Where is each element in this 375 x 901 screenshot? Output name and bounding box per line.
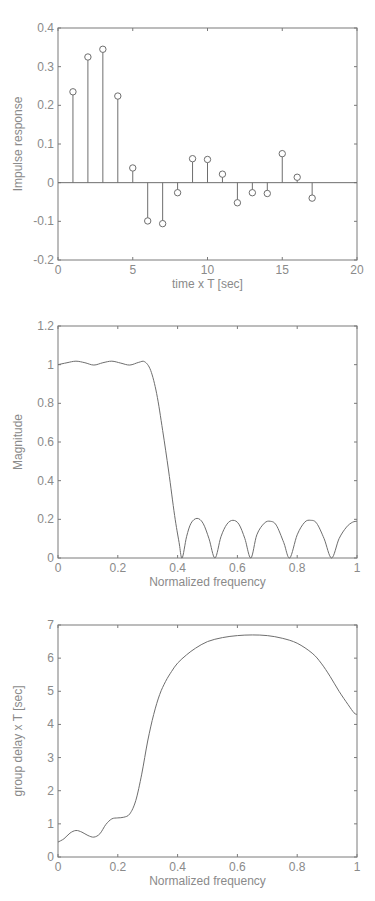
x-tick-label: 0.4 bbox=[169, 860, 186, 874]
y-tick-label: 0 bbox=[47, 176, 54, 190]
group-delay-chart: 00.20.40.60.8101234567Normalized frequen… bbox=[0, 597, 375, 897]
stem-marker bbox=[174, 190, 180, 196]
stem-marker bbox=[264, 190, 270, 196]
x-tick-label: 0.8 bbox=[289, 561, 306, 575]
y-tick-label: 0.3 bbox=[37, 60, 54, 74]
magnitude-response-chart: 00.20.40.60.8100.20.40.60.811.2Normalize… bbox=[0, 298, 375, 598]
y-tick-label: -0.1 bbox=[33, 214, 54, 228]
x-tick-label: 0.6 bbox=[229, 561, 246, 575]
plot-frame bbox=[58, 326, 357, 558]
stem-marker bbox=[279, 150, 285, 156]
y-axis-label: group delay x T [sec] bbox=[11, 686, 25, 797]
x-axis-label: Normalized frequency bbox=[149, 575, 266, 589]
y-tick-label: 0.4 bbox=[37, 21, 54, 35]
magnitude-response-plot: 00.20.40.60.8100.20.40.60.811.2Normalize… bbox=[0, 298, 375, 598]
x-tick-label: 0.6 bbox=[229, 860, 246, 874]
stem-marker bbox=[249, 190, 255, 196]
stem-marker bbox=[145, 218, 151, 224]
x-axis-label: Normalized frequency bbox=[149, 874, 266, 888]
y-tick-label: 1 bbox=[47, 817, 54, 831]
y-tick-label: 0.1 bbox=[37, 137, 54, 151]
stem-marker bbox=[159, 220, 165, 226]
x-tick-label: 15 bbox=[276, 263, 290, 277]
x-tick-label: 0.4 bbox=[169, 561, 186, 575]
y-tick-label: 3 bbox=[47, 751, 54, 765]
x-tick-label: 5 bbox=[129, 263, 136, 277]
data-line bbox=[58, 635, 357, 842]
stem-marker bbox=[234, 200, 240, 206]
stem-marker bbox=[294, 174, 300, 180]
y-tick-label: 0.4 bbox=[37, 474, 54, 488]
x-tick-label: 0 bbox=[55, 263, 62, 277]
group-delay-plot: 00.20.40.60.8101234567Normalized frequen… bbox=[0, 597, 375, 897]
y-tick-label: 0.6 bbox=[37, 435, 54, 449]
y-tick-label: -0.2 bbox=[33, 253, 54, 267]
y-tick-label: 0.2 bbox=[37, 512, 54, 526]
x-tick-label: 1 bbox=[354, 561, 361, 575]
stem-marker bbox=[70, 89, 76, 95]
stem-marker bbox=[115, 93, 121, 99]
stem-marker bbox=[204, 156, 210, 162]
stem-marker bbox=[189, 155, 195, 161]
x-tick-label: 0 bbox=[55, 561, 62, 575]
y-tick-label: 7 bbox=[47, 618, 54, 632]
x-tick-label: 0.2 bbox=[109, 561, 126, 575]
stem-marker bbox=[85, 54, 91, 60]
impulse-response-plot: 05101520-0.2-0.100.10.20.30.4time x T [s… bbox=[0, 0, 375, 300]
x-tick-label: 10 bbox=[201, 263, 215, 277]
stem-marker bbox=[100, 46, 106, 52]
y-tick-label: 0 bbox=[47, 850, 54, 864]
y-tick-label: 4 bbox=[47, 717, 54, 731]
y-axis-label: Impulse response bbox=[11, 96, 25, 191]
stem-marker bbox=[309, 195, 315, 201]
x-tick-label: 0.2 bbox=[109, 860, 126, 874]
y-tick-label: 1.2 bbox=[37, 319, 54, 333]
x-tick-label: 0.8 bbox=[289, 860, 306, 874]
x-axis-label: time x T [sec] bbox=[172, 277, 243, 291]
x-tick-label: 1 bbox=[354, 860, 361, 874]
y-tick-label: 6 bbox=[47, 651, 54, 665]
y-tick-label: 0.2 bbox=[37, 98, 54, 112]
plot-frame bbox=[58, 625, 357, 857]
stem-marker bbox=[130, 165, 136, 171]
y-axis-label: Magnitude bbox=[11, 414, 25, 470]
impulse-response-chart: 05101520-0.2-0.100.10.20.30.4time x T [s… bbox=[0, 0, 375, 300]
y-tick-label: 1 bbox=[47, 358, 54, 372]
data-line bbox=[58, 361, 357, 558]
y-tick-label: 0.8 bbox=[37, 396, 54, 410]
stem-marker bbox=[219, 171, 225, 177]
y-tick-label: 5 bbox=[47, 684, 54, 698]
x-tick-label: 0 bbox=[55, 860, 62, 874]
x-tick-label: 20 bbox=[350, 263, 364, 277]
y-tick-label: 2 bbox=[47, 784, 54, 798]
y-tick-label: 0 bbox=[47, 551, 54, 565]
